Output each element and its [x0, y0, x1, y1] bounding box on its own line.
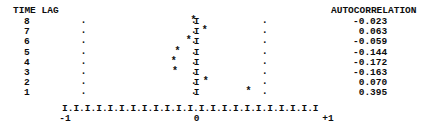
- plot-guide-dot: .: [262, 87, 268, 97]
- data-point-marker: *: [202, 26, 208, 36]
- data-point-marker: *: [245, 87, 251, 97]
- autocorrelation-value: 0.395: [353, 88, 387, 98]
- autocorrelation-values: -0.023 0.063-0.059-0.144-0.172-0.163 0.0…: [353, 17, 387, 99]
- plot-guide-dot: .: [80, 87, 86, 97]
- x-axis-tick-labels: -10+1: [0, 114, 441, 126]
- autocorrelation-plot: TIME LAG 87654321 ...I*...I*...I*...I*..…: [0, 0, 441, 133]
- data-point-marker: *: [172, 67, 178, 77]
- x-axis-tick-label: +1: [322, 114, 333, 124]
- data-point-marker: *: [203, 77, 209, 87]
- x-axis-line: I.I.I.I.I.I.I.I.I.I.I.I.I.I.I.I.I.I.I.I.…: [62, 104, 319, 114]
- x-axis-tick-label: -1: [59, 114, 70, 124]
- zero-reference-line-mark: I: [194, 88, 200, 98]
- x-axis-tick-label: 0: [194, 114, 200, 124]
- autocorrelation-header: AUTOCORRELATION: [331, 6, 417, 16]
